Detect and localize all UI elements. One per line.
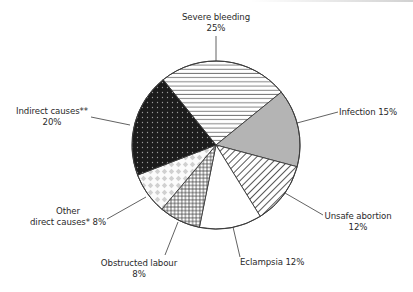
leader-other-direct <box>107 197 146 219</box>
label-value: 25% <box>170 23 262 34</box>
label-indirect: Indirect causes** 20% <box>12 106 92 127</box>
label-text: Other <box>26 206 110 217</box>
label-unsafe-abortion: Unsafe abortion 12% <box>318 211 398 232</box>
label-eclampsia: Eclampsia 12% <box>240 257 304 268</box>
leader-eclampsia <box>233 227 240 257</box>
leader-infection <box>297 112 338 123</box>
label-severe-bleeding: Severe bleeding 25% <box>170 12 262 33</box>
label-text: Infection 15% <box>339 107 397 118</box>
label-value: 20% <box>12 117 92 128</box>
label-text: Severe bleeding <box>170 12 262 23</box>
label-text: Obstructed labour <box>94 258 184 269</box>
label-text: Unsafe abortion <box>318 211 398 222</box>
label-other-direct: Other direct causes* 8% <box>26 206 110 227</box>
label-obstructed-labour: Obstructed labour 8% <box>94 258 184 279</box>
label-infection: Infection 15% <box>339 107 397 118</box>
label-value: direct causes* 8% <box>26 217 110 228</box>
label-text: Eclampsia 12% <box>240 257 304 268</box>
leader-indirect <box>91 117 130 125</box>
leader-obstructed-labour <box>165 222 178 255</box>
label-value: 12% <box>318 222 398 233</box>
label-value: 8% <box>94 269 184 280</box>
label-text: Indirect causes** <box>12 106 92 117</box>
pie-slices <box>132 61 300 229</box>
pie-chart <box>0 0 413 292</box>
